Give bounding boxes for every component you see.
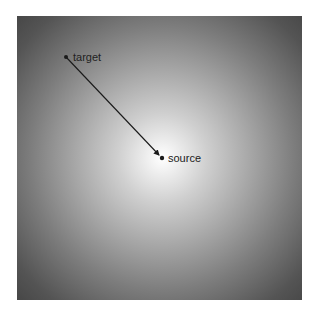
target-node-dot[interactable] xyxy=(64,55,68,59)
diagram-overlay: target source xyxy=(0,0,316,315)
edge-target-source xyxy=(66,57,159,155)
source-node-dot[interactable] xyxy=(160,156,164,160)
target-label: target xyxy=(73,51,101,63)
source-label: source xyxy=(168,152,201,164)
